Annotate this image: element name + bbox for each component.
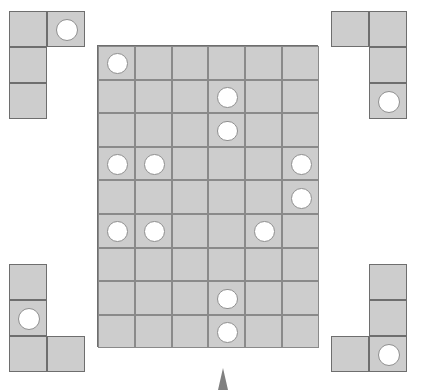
grid-cell-r5-c2[interactable] — [172, 214, 209, 248]
grid-cell-r2-c4[interactable] — [245, 113, 282, 147]
piece-top-left-cell-r0-c1[interactable] — [47, 11, 85, 47]
piece-bottom-left-cell-r2-c0[interactable] — [9, 336, 47, 372]
piece-bottom-right-cell-r2-c1[interactable] — [369, 336, 407, 372]
grid-cell-r2-c2[interactable] — [172, 113, 209, 147]
grid-cell-r3-c0[interactable] — [98, 147, 135, 181]
grid-cell-r1-c0[interactable] — [98, 80, 135, 114]
piece-bottom-right-cell-r0-c1[interactable] — [369, 264, 407, 300]
piece-top-right-cell-r0-c1[interactable] — [369, 11, 407, 47]
grid-cell-r4-c2[interactable] — [172, 180, 209, 214]
grid-disc-r3-c0[interactable] — [107, 154, 128, 175]
grid-cell-r3-c5[interactable] — [282, 147, 319, 181]
grid-cell-r8-c3[interactable] — [208, 315, 245, 349]
grid-cell-r8-c0[interactable] — [98, 315, 135, 349]
grid-disc-r2-c3[interactable] — [217, 121, 238, 142]
piece-top-right-cell-r1-c1[interactable] — [369, 47, 407, 83]
grid-cell-r6-c0[interactable] — [98, 248, 135, 282]
grid-cell-r4-c1[interactable] — [135, 180, 172, 214]
piece-bottom-left-cell-r0-c0[interactable] — [9, 264, 47, 300]
grid-disc-r5-c0[interactable] — [107, 221, 128, 242]
piece-top-left-cell-r2-c0[interactable] — [9, 83, 47, 119]
grid-disc-r5-c1[interactable] — [144, 221, 165, 242]
grid-cell-r2-c5[interactable] — [282, 113, 319, 147]
grid-cell-r0-c4[interactable] — [245, 46, 282, 80]
grid-cell-r5-c0[interactable] — [98, 214, 135, 248]
grid-cell-r7-c2[interactable] — [172, 281, 209, 315]
grid-cell-r7-c0[interactable] — [98, 281, 135, 315]
grid-disc-r3-c5[interactable] — [291, 154, 312, 175]
grid-cell-r3-c2[interactable] — [172, 147, 209, 181]
piece-top-left-cell-r0-c0[interactable] — [9, 11, 47, 47]
grid-cell-r1-c5[interactable] — [282, 80, 319, 114]
pointer-triangle-icon — [218, 368, 228, 390]
grid-cell-r8-c5[interactable] — [282, 315, 319, 349]
grid-disc-r4-c5[interactable] — [291, 188, 312, 209]
piece-bottom-right-cell-r1-c1[interactable] — [369, 300, 407, 336]
piece-bottom-left-disc[interactable] — [18, 308, 40, 330]
grid-cell-r6-c4[interactable] — [245, 248, 282, 282]
grid-cell-r7-c3[interactable] — [208, 281, 245, 315]
grid-cell-r1-c1[interactable] — [135, 80, 172, 114]
piece-top-left-disc[interactable] — [56, 19, 78, 41]
grid-cell-r7-c4[interactable] — [245, 281, 282, 315]
grid-cell-r7-c5[interactable] — [282, 281, 319, 315]
grid-cell-r1-c4[interactable] — [245, 80, 282, 114]
grid-disc-r1-c3[interactable] — [217, 87, 238, 108]
grid-cell-r2-c1[interactable] — [135, 113, 172, 147]
grid-cell-r3-c3[interactable] — [208, 147, 245, 181]
grid-cell-r2-c0[interactable] — [98, 113, 135, 147]
piece-top-right-cell-r2-c1[interactable] — [369, 83, 407, 119]
grid-disc-r0-c0[interactable] — [107, 53, 128, 74]
piece-bottom-right-disc[interactable] — [378, 344, 400, 366]
grid-cell-r3-c4[interactable] — [245, 147, 282, 181]
grid-cell-r6-c3[interactable] — [208, 248, 245, 282]
piece-top-left-cell-r1-c0[interactable] — [9, 47, 47, 83]
main-grid[interactable] — [97, 45, 318, 347]
grid-disc-r7-c3[interactable] — [217, 289, 238, 310]
grid-cell-r2-c3[interactable] — [208, 113, 245, 147]
puzzle-canvas — [0, 0, 422, 391]
piece-bottom-right-cell-r2-c0[interactable] — [331, 336, 369, 372]
grid-cell-r8-c1[interactable] — [135, 315, 172, 349]
grid-disc-r3-c1[interactable] — [144, 154, 165, 175]
grid-cell-r5-c3[interactable] — [208, 214, 245, 248]
grid-cell-r4-c0[interactable] — [98, 180, 135, 214]
grid-cell-r0-c1[interactable] — [135, 46, 172, 80]
piece-top-right-disc[interactable] — [378, 91, 400, 113]
grid-cell-r8-c4[interactable] — [245, 315, 282, 349]
grid-cell-r7-c1[interactable] — [135, 281, 172, 315]
grid-disc-r8-c3[interactable] — [217, 322, 238, 343]
grid-cell-r0-c0[interactable] — [98, 46, 135, 80]
grid-cell-r6-c5[interactable] — [282, 248, 319, 282]
piece-top-right-cell-r0-c0[interactable] — [331, 11, 369, 47]
grid-cell-r5-c4[interactable] — [245, 214, 282, 248]
piece-bottom-left-cell-r2-c1[interactable] — [47, 336, 85, 372]
grid-cell-r0-c2[interactable] — [172, 46, 209, 80]
grid-cell-r8-c2[interactable] — [172, 315, 209, 349]
grid-cell-r0-c3[interactable] — [208, 46, 245, 80]
grid-cell-r5-c1[interactable] — [135, 214, 172, 248]
grid-disc-r5-c4[interactable] — [254, 221, 275, 242]
grid-cell-r1-c2[interactable] — [172, 80, 209, 114]
grid-cell-r4-c4[interactable] — [245, 180, 282, 214]
grid-cell-r6-c1[interactable] — [135, 248, 172, 282]
grid-cell-r4-c5[interactable] — [282, 180, 319, 214]
grid-cell-r3-c1[interactable] — [135, 147, 172, 181]
grid-cell-r4-c3[interactable] — [208, 180, 245, 214]
grid-cell-r1-c3[interactable] — [208, 80, 245, 114]
grid-cell-r5-c5[interactable] — [282, 214, 319, 248]
grid-cell-r0-c5[interactable] — [282, 46, 319, 80]
piece-bottom-left-cell-r1-c0[interactable] — [9, 300, 47, 336]
grid-cell-r6-c2[interactable] — [172, 248, 209, 282]
